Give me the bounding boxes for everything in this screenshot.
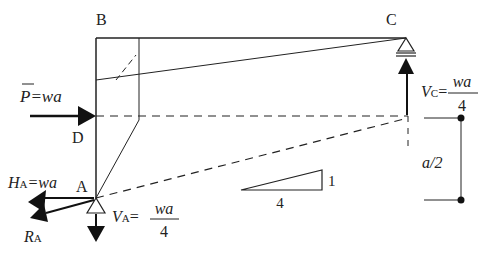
support-A [87, 198, 105, 242]
support-C [396, 38, 416, 115]
load-P: P=wa [19, 84, 96, 126]
reaction-RA: RA [23, 200, 94, 245]
va-arrow-head [87, 226, 105, 242]
label-D: D [72, 129, 84, 146]
svg-text:4: 4 [276, 195, 284, 211]
frame-diagram: B C D A P=wa VC= wa 4 a/2 1 4 [0, 0, 497, 259]
slope-triangle [241, 170, 322, 190]
vc-arrow-head [398, 58, 414, 74]
dim-top-dot [458, 115, 465, 122]
svg-text:RA: RA [23, 228, 42, 245]
svg-text:wa: wa [453, 73, 472, 90]
label-A: A [76, 178, 88, 195]
svg-text:HA=wa: HA=wa [7, 174, 57, 191]
dim-bottom-dot [458, 197, 465, 204]
svg-text:wa: wa [155, 200, 174, 217]
frame-structure [96, 38, 408, 198]
load-arrow-head [78, 106, 96, 126]
svg-text:4: 4 [458, 97, 466, 114]
support-C-triangle [398, 38, 414, 51]
dimension-a-half: a/2 [422, 115, 465, 204]
svg-text:VC=: VC= [421, 83, 447, 100]
label-B: B [96, 11, 107, 28]
reaction-VC-label: VC= wa 4 [421, 73, 478, 114]
deflected-beam [96, 38, 406, 80]
svg-text:1: 1 [328, 173, 336, 189]
svg-text:4: 4 [160, 223, 168, 240]
svg-text:VA=: VA= [112, 208, 139, 225]
load-label: P=wa [19, 87, 62, 106]
slope-indicator: 1 4 [241, 170, 336, 211]
label-C: C [386, 11, 397, 28]
dashed-diagonal-A [96, 118, 408, 198]
ra-arrow-shaft [46, 200, 94, 213]
reaction-VA-label: VA= wa 4 [112, 200, 179, 240]
svg-text:a/2: a/2 [422, 154, 442, 171]
deflected-column-lower [96, 120, 139, 198]
